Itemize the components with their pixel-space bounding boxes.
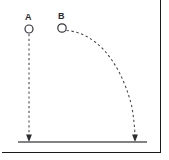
arrowhead-a xyxy=(26,135,32,142)
object-a-label: A xyxy=(25,12,32,22)
figure-canvas: A B xyxy=(0,0,169,160)
dashed-path-b xyxy=(67,31,136,136)
object-a-circle xyxy=(25,25,33,33)
object-b-label: B xyxy=(58,11,65,21)
figure-border-right xyxy=(160,0,161,152)
arrowhead-b xyxy=(132,135,138,142)
figure-border-bottom xyxy=(2,152,161,153)
object-b-circle xyxy=(58,24,66,32)
path-object-a xyxy=(26,34,32,142)
path-object-b xyxy=(67,31,138,143)
projectile-diagram xyxy=(0,0,169,160)
